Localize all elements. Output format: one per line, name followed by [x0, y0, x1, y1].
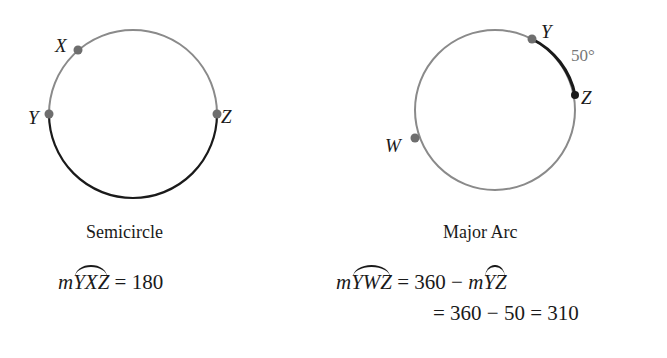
label-w: W — [385, 136, 401, 155]
arc-name: YZ — [483, 272, 506, 293]
arc-name: YXZ — [73, 272, 109, 293]
point-w — [411, 134, 420, 143]
point-z — [571, 91, 579, 99]
measure-symbol: m — [336, 270, 351, 294]
point-x — [74, 46, 83, 55]
major-arc-equation-line1: mYWZ = 360 − mYZ — [336, 272, 507, 293]
label-z: Z — [221, 107, 232, 126]
semicircle-equation: mYXZ = 180 — [58, 272, 163, 293]
major-arc-equation-line2: = 360 − 50 = 310 — [433, 303, 579, 324]
point-y — [45, 110, 54, 119]
minor-arc-yz — [532, 39, 575, 95]
measure-symbol: m — [58, 270, 73, 294]
equation-middle: = 360 − — [392, 270, 468, 294]
label-x: X — [55, 36, 67, 55]
label-y: Y — [28, 108, 39, 127]
arc-measure-label: 50° — [571, 47, 595, 64]
lower-semicircle-arc — [49, 114, 217, 198]
upper-arc — [49, 30, 217, 114]
arc-name: YWZ — [351, 272, 392, 293]
label-y: Y — [541, 22, 552, 41]
point-y — [528, 35, 537, 44]
measure-symbol: m — [468, 270, 483, 294]
caption-major-arc: Major Arc — [443, 223, 517, 241]
semicircle-figure — [45, 30, 222, 198]
label-z: Z — [581, 88, 592, 107]
equation-value: = 180 — [109, 270, 163, 294]
caption-semicircle: Semicircle — [86, 223, 163, 241]
major-arc-figure — [411, 30, 580, 190]
